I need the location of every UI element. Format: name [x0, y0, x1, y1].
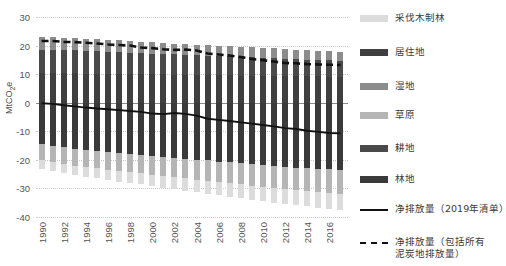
x-tick-label: 2004	[192, 222, 203, 243]
x-tick-label: 1996	[103, 222, 114, 243]
legend-label: 草原	[395, 109, 415, 121]
legend-swatch	[360, 145, 388, 152]
net-emissions-line	[42, 41, 341, 65]
legend-swatch	[360, 83, 388, 90]
legend-item[interactable]: 耕地	[360, 142, 415, 154]
x-tick-label: 1998	[125, 222, 136, 243]
legend-swatch	[360, 49, 388, 56]
legend-label-line2: 泥炭地排放量）	[395, 248, 485, 260]
x-tick-label: 2016	[324, 222, 335, 243]
legend-item[interactable]: 湿地	[360, 80, 415, 92]
legend-label: 净排放量（2019年清单）	[395, 203, 506, 215]
legend-label: 采伐木制林	[395, 12, 445, 24]
chart-figure: MtCO2e 3020100-10-20-30-40 1990199219941…	[0, 0, 506, 266]
x-tick-label: 2008	[236, 222, 247, 243]
net-emissions-line	[42, 103, 341, 133]
legend-line-marker	[360, 209, 388, 211]
legend-item[interactable]: 林地	[360, 173, 415, 185]
legend-item[interactable]: 净排放量（包括所有泥炭地排放量）	[360, 236, 485, 260]
legend-label: 耕地	[395, 142, 415, 154]
legend-item[interactable]: 净排放量（2019年清单）	[360, 203, 506, 215]
x-tick-label: 2006	[214, 222, 225, 243]
legend-label: 净排放量（包括所有泥炭地排放量）	[395, 236, 485, 260]
x-tick-label: 2014	[302, 222, 313, 243]
legend-swatch	[360, 15, 388, 22]
legend-item[interactable]: 草原	[360, 109, 415, 121]
legend-label: 林地	[395, 173, 415, 185]
line-series-group	[0, 0, 506, 266]
legend-label-line1: 净排放量（包括所有	[395, 236, 485, 247]
plot-area: MtCO2e 3020100-10-20-30-40 1990199219941…	[0, 0, 506, 266]
legend-swatch	[360, 112, 388, 119]
x-tick-label: 1994	[81, 222, 92, 243]
x-tick-label: 2012	[280, 222, 291, 243]
legend-swatch	[360, 176, 388, 183]
legend-item[interactable]: 采伐木制林	[360, 12, 445, 24]
x-tick-label: 2000	[147, 222, 158, 243]
legend-label: 湿地	[395, 80, 415, 92]
legend-dash-marker	[360, 242, 388, 244]
legend-item[interactable]: 居住地	[360, 46, 425, 58]
x-tick-label: 2010	[258, 222, 269, 243]
x-tick-label: 1992	[59, 222, 70, 243]
x-tick-label: 1990	[37, 222, 48, 243]
x-tick-label: 2002	[169, 222, 180, 243]
legend-label: 居住地	[395, 46, 425, 58]
